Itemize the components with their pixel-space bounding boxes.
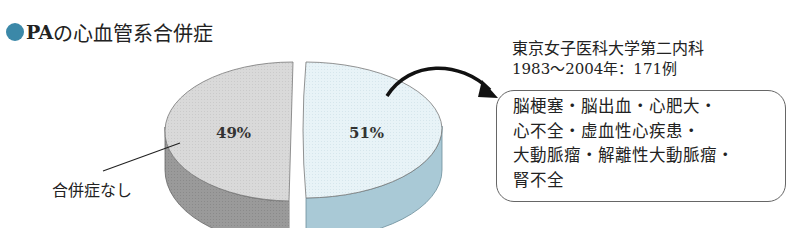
callout-line: 大動脈瘤・解離性大動脈瘤・ [513, 144, 785, 169]
source-note: 東京女子医科大学第二内科 1983〜2004年：171例 [512, 38, 704, 80]
source-institution: 東京女子医科大学第二内科 [512, 38, 704, 59]
complications-callout: 脳梗塞・脳出血・心肥大・ 心不全・虚血性心疾患・ 大動脈瘤・解離性大動脈瘤・ 腎… [496, 90, 786, 202]
slice-label-none: 49% [216, 124, 251, 142]
slice-label-with: 51% [349, 124, 384, 142]
callout-line: 腎不全 [513, 169, 785, 194]
source-period: 1983〜2004年：171例 [512, 59, 704, 80]
callout-line: 脳梗塞・脳出血・心肥大・ [513, 95, 785, 120]
no-complication-label: 合併症なし [52, 177, 132, 201]
callout-line: 心不全・虚血性心疾患・ [513, 120, 785, 145]
